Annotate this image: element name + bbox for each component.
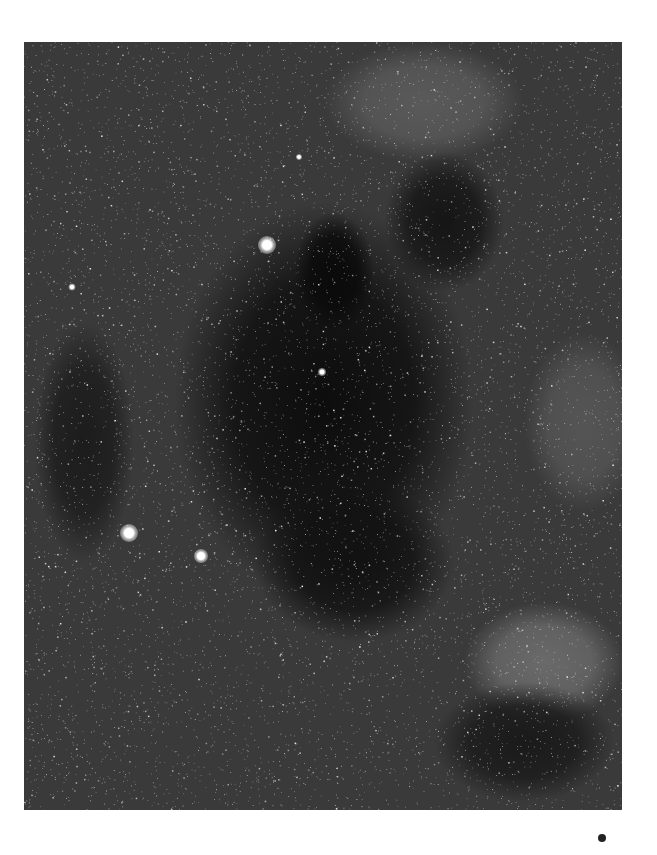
star-field-photo bbox=[24, 42, 622, 810]
bright-star bbox=[318, 368, 326, 376]
marker-dot bbox=[598, 834, 606, 842]
bright-star bbox=[120, 524, 138, 542]
star-field-canvas bbox=[24, 42, 622, 810]
bright-star bbox=[194, 549, 208, 563]
bright-star bbox=[258, 236, 276, 254]
bright-star bbox=[296, 154, 302, 160]
bright-star bbox=[69, 284, 76, 291]
